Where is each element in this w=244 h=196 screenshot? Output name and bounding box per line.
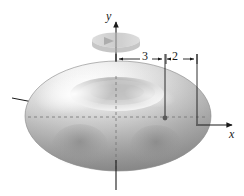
torus-solid (25, 61, 211, 171)
torus-figure: y x 3 2 (0, 0, 244, 196)
rotation-arrow-icon (92, 33, 140, 53)
dimension-line-tube-radius (166, 54, 197, 64)
tube-center-dot (163, 116, 168, 121)
y-axis-label: y (106, 10, 111, 22)
dimension-label-inner-offset: 3 (142, 50, 148, 62)
x-axis-label: x (229, 128, 234, 140)
torus-diagram-canvas (0, 0, 244, 196)
dimension-label-tube-radius: 2 (172, 50, 178, 62)
